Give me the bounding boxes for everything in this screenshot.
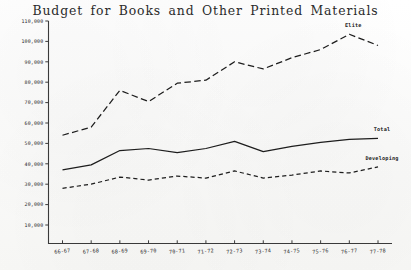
y-tick-label: 10,000 <box>25 222 44 228</box>
y-tick-label: 70,000 <box>25 99 44 105</box>
chart-screenshot: Budget for Books and Other Printed Mater… <box>0 0 411 270</box>
x-tick-label: 72-73 <box>226 247 243 255</box>
y-tick-label: 50,000 <box>25 140 44 146</box>
series-lines <box>63 34 379 188</box>
x-tick-label: 71-72 <box>197 247 214 255</box>
y-tick-label: 30,000 <box>25 181 44 187</box>
series-line-total <box>63 138 379 170</box>
x-tick-label: 74-75 <box>283 247 300 255</box>
y-tick-label: 90,000 <box>25 59 44 65</box>
series-line-developing <box>63 167 379 188</box>
x-axis-ticks: 66-6767-6868-6969-7070-7171-7272-7373-74… <box>54 240 386 255</box>
axis-frame <box>49 21 393 244</box>
y-tick-label: 100,000 <box>21 38 43 44</box>
x-tick-label: 77-78 <box>369 247 386 255</box>
y-axis-ticks: 10,00020,00030,00040,00050,00060,00070,0… <box>21 18 48 228</box>
y-tick-label: 60,000 <box>25 120 44 126</box>
x-tick-label: 67-68 <box>83 247 100 255</box>
series-line-elite <box>63 34 379 135</box>
series-label-total: Total <box>374 126 391 132</box>
chart-plot-area: 10,00020,00030,00040,00050,00060,00070,0… <box>0 0 411 270</box>
y-tick-label: 80,000 <box>25 79 44 85</box>
y-tick-label: 110,000 <box>21 18 43 24</box>
x-tick-label: 70-71 <box>169 247 186 255</box>
series-label-developing: Developing <box>365 155 398 162</box>
x-tick-label: 75-76 <box>312 247 329 255</box>
x-tick-label: 66-67 <box>54 247 71 255</box>
x-tick-label: 73-74 <box>255 247 272 255</box>
y-tick-label: 20,000 <box>25 201 44 207</box>
series-label-elite: Elite <box>345 22 362 28</box>
x-tick-label: 68-69 <box>111 247 128 255</box>
x-tick-label: 69-70 <box>140 247 157 255</box>
y-tick-label: 40,000 <box>25 161 44 167</box>
x-tick-label: 76-77 <box>341 247 358 255</box>
